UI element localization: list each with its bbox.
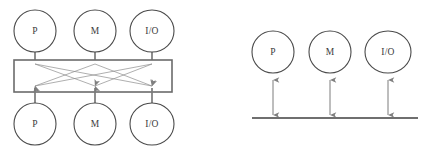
bus-node-io[interactable]: I/O [365, 31, 411, 73]
figure-root: P M I/O P M [0, 0, 430, 156]
crossbar-output-node-io[interactable]: I/O [130, 103, 174, 145]
bus-node-m[interactable]: M [309, 31, 351, 73]
crossbar-input-nodes: P M I/O [14, 10, 174, 52]
crossbar-output-nodes: P M I/O [14, 103, 174, 145]
node-label: I/O [145, 26, 158, 36]
shared-bus-diagram: P M I/O [252, 31, 418, 118]
node-label: M [326, 47, 335, 57]
node-label: M [91, 119, 100, 129]
node-label: I/O [145, 119, 158, 129]
node-label: M [91, 26, 100, 36]
node-label: P [32, 26, 37, 36]
node-label: P [32, 119, 37, 129]
node-label: P [270, 47, 275, 57]
crossbar-input-node-p[interactable]: P [14, 10, 56, 52]
bus-node-p[interactable]: P [252, 31, 294, 73]
bus-links [273, 80, 388, 115]
crossbar-switch-diagram: P M I/O P M [14, 10, 174, 145]
crossbar-input-node-m[interactable]: M [74, 10, 116, 52]
figure-canvas: P M I/O P M [0, 0, 430, 156]
bus-nodes: P M I/O [252, 31, 411, 73]
crossbar-output-node-p[interactable]: P [14, 103, 56, 145]
crossbar-output-node-m[interactable]: M [74, 103, 116, 145]
node-label: I/O [381, 47, 394, 57]
crossbar-input-node-io[interactable]: I/O [130, 10, 174, 52]
